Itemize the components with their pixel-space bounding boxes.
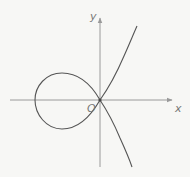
x-axis-label: x: [175, 103, 182, 114]
curve-diagram: [0, 0, 190, 177]
origin-label: O: [87, 103, 96, 114]
curve-upper-branch: [100, 26, 137, 100]
origin-point: [98, 98, 101, 101]
curve-loop: [35, 73, 100, 129]
y-axis-label: y: [90, 11, 97, 22]
curve-lower-branch: [100, 100, 132, 167]
